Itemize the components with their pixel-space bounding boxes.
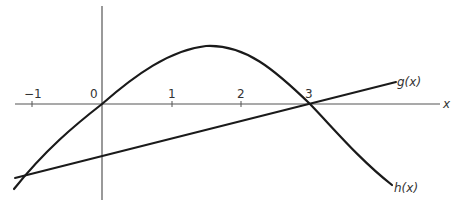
h-curve [14,46,392,189]
h-label: h(x) [394,181,418,195]
tick-label-0: 0 [90,87,98,101]
function-plot: −1 0 1 2 3 x g(x) h(x) [0,0,454,213]
tick-label-1: 1 [168,87,176,101]
g-line [15,82,396,178]
tick-label-neg1: −1 [24,87,42,101]
tick-label-2: 2 [237,87,245,101]
g-label: g(x) [397,75,421,89]
x-axis-label: x [442,97,451,111]
